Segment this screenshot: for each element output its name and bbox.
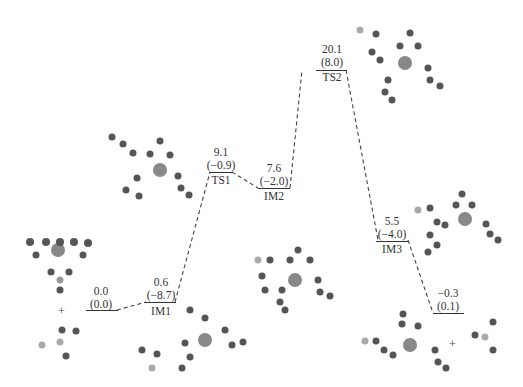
energy-label-reactants: 0.0 (0.0) (71, 285, 131, 311)
state-name-im1: IM1 (131, 305, 191, 317)
energy-value-secondary: (−8.7) (131, 289, 191, 302)
state-name-ts2: TS2 (302, 71, 362, 83)
energy-value-secondary: (0.1) (418, 300, 478, 313)
plus-sign-products: + (449, 337, 456, 352)
energy-label-im1: 0.6 (−8.7) (131, 276, 191, 302)
energy-label-im3: 5.5 (−4.0) (362, 215, 422, 241)
energy-value-secondary: (−4.0) (362, 228, 422, 241)
energy-value-secondary: (−2.0) (244, 175, 304, 188)
energy-value-secondary: (0.0) (71, 298, 131, 311)
plus-sign-reactants: + (58, 304, 65, 319)
state-name-im3: IM3 (362, 243, 422, 255)
energy-label-ts2: 20.1 (8.0) (302, 43, 362, 69)
energy-value: 7.6 (244, 162, 304, 175)
energy-value: 9.1 (191, 146, 251, 159)
level-ts1 (209, 172, 233, 173)
energy-value-secondary: (8.0) (302, 56, 362, 69)
state-name-ts1: TS1 (191, 174, 251, 186)
level-im1 (145, 302, 176, 303)
energy-label-im2: 7.6 (−2.0) (244, 162, 304, 188)
level-im3 (376, 241, 408, 242)
energy-label-products: −0.3 (0.1) (418, 287, 478, 313)
energy-value: 20.1 (302, 43, 362, 56)
level-im2 (258, 188, 290, 189)
energy-value: 5.5 (362, 215, 422, 228)
level-products (433, 313, 464, 314)
energy-value: 0.6 (131, 276, 191, 289)
energy-value: 0.0 (71, 285, 131, 298)
energy-value: −0.3 (418, 287, 478, 300)
energy-value-secondary: (−0.9) (191, 159, 251, 172)
energy-label-ts1: 9.1 (−0.9) (191, 146, 251, 172)
state-name-im2: IM2 (244, 190, 304, 202)
